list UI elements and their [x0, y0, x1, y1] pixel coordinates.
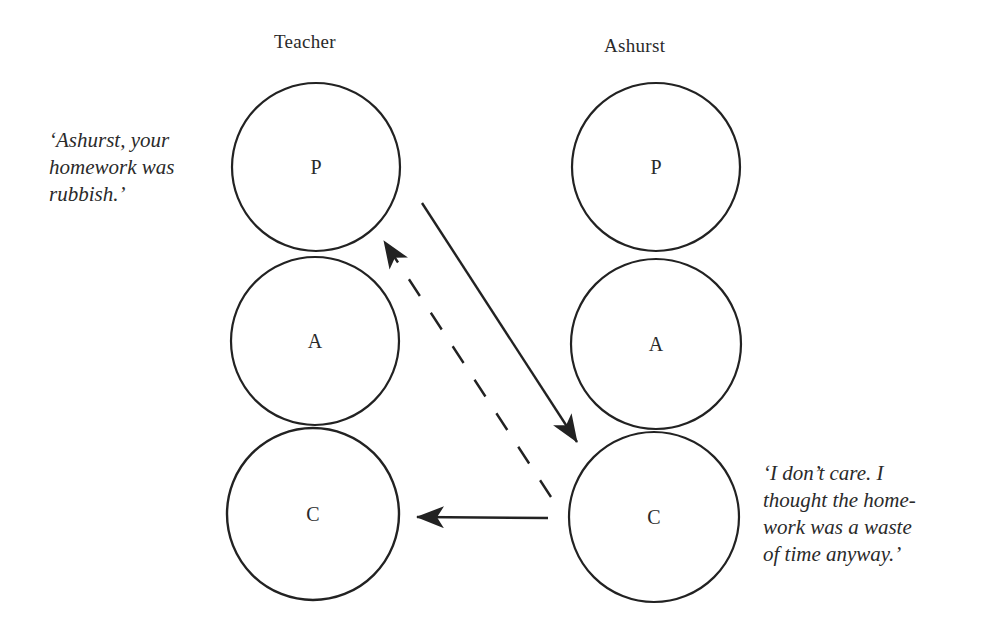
state-label: P — [650, 156, 661, 178]
state-label: C — [647, 506, 660, 528]
ashurst-adult-state: A — [571, 259, 741, 429]
teacher-adult-state: A — [231, 257, 399, 425]
teacher-parent-state: P — [232, 83, 400, 251]
state-label: P — [310, 156, 321, 178]
ashurst-parent-state: P — [572, 83, 740, 251]
transactional-analysis-diagram: P A C P A C — [0, 0, 1004, 631]
ashurst-child-state: C — [569, 432, 739, 602]
stimulus-arrow-teacher-p-to-ashurst-c — [422, 203, 577, 442]
response-arrow-dashed-ashurst-c-to-teacher-p — [384, 241, 551, 497]
state-label: A — [649, 333, 664, 355]
teacher-child-state: C — [227, 428, 399, 600]
state-label: A — [308, 330, 323, 352]
response-arrow-ashurst-c-to-teacher-c — [417, 517, 548, 518]
state-label: C — [306, 503, 319, 525]
